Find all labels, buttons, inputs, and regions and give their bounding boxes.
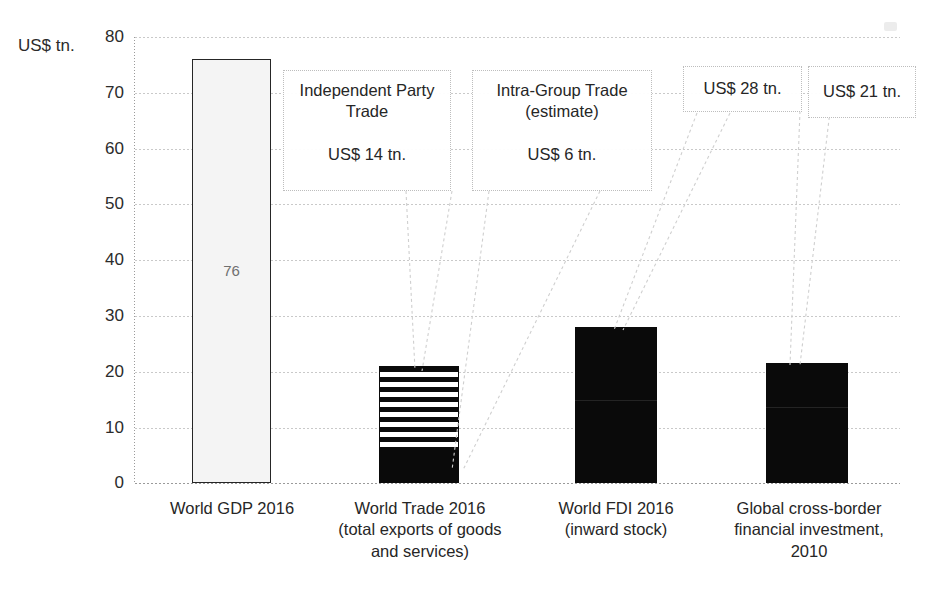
y-tick-70: 70 — [72, 83, 124, 103]
y-axis-title: US$ tn. — [18, 36, 75, 56]
y-tick-10: 10 — [72, 418, 124, 438]
category-label-global-cross-border-2010: Global cross-border financial investment… — [716, 498, 902, 562]
bar-global-cross-border-investment-2010[interactable] — [766, 363, 848, 483]
scan-artifact — [884, 22, 897, 31]
bar-world-trade-2016-independent-party-segment[interactable] — [379, 366, 459, 447]
y-tick-20: 20 — [72, 362, 124, 382]
category-label-world-trade-2016: World Trade 2016 (total exports of goods… — [327, 498, 513, 562]
callout-value-intra-group-trade: US$ 6 tn. — [528, 144, 597, 165]
y-tick-40: 40 — [72, 250, 124, 270]
callout-world-fdi-value[interactable]: US$ 28 tn. — [683, 66, 802, 112]
category-label-world-gdp-2016: World GDP 2016 — [141, 498, 323, 519]
callout-cross-border-value[interactable]: US$ 21 tn. — [808, 66, 916, 118]
callout-independent-party-trade[interactable]: Independent Party Trade US$ 14 tn. — [283, 70, 451, 191]
y-tick-60: 60 — [72, 139, 124, 159]
callout-title-independent-party-trade: Independent Party Trade — [300, 80, 435, 122]
y-tick-30: 30 — [72, 306, 124, 326]
y-tick-50: 50 — [72, 194, 124, 214]
callout-title-intra-group-trade: Intra-Group Trade (estimate) — [496, 80, 627, 122]
y-tick-0: 0 — [72, 473, 124, 493]
chart-figure: US$ tn. 80 70 60 50 40 30 20 10 0 76 — [0, 0, 936, 591]
bar-cross-border-inner-divider — [766, 407, 848, 408]
category-label-world-fdi-2016: World FDI 2016 (inward stock) — [524, 498, 708, 541]
gridline-80 — [135, 37, 900, 38]
bar-world-fdi-2016[interactable] — [575, 327, 657, 483]
callout-value-independent-party-trade: US$ 14 tn. — [328, 144, 406, 165]
y-tick-80: 80 — [72, 27, 124, 47]
callout-intra-group-trade[interactable]: Intra-Group Trade (estimate) US$ 6 tn. — [472, 70, 652, 191]
bar-fdi-inner-divider — [575, 400, 657, 401]
bar-world-trade-2016-intra-group-segment[interactable] — [379, 447, 459, 483]
y-axis-line — [134, 37, 135, 484]
callout-value-world-fdi: US$ 28 tn. — [704, 78, 782, 99]
callout-value-cross-border: US$ 21 tn. — [823, 81, 901, 102]
bar-value-label-world-gdp: 76 — [192, 262, 271, 279]
